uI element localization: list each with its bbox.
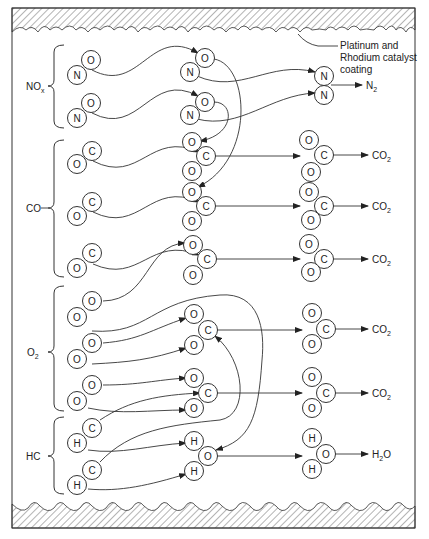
atom-n-circle: N <box>315 67 334 86</box>
atom-c-circle: C <box>199 321 218 340</box>
atom-n-circle: N <box>181 63 200 82</box>
svg-text:O: O <box>305 135 313 146</box>
svg-text:C: C <box>88 197 95 208</box>
atom-h-circle: H <box>68 476 87 495</box>
atom-o-circle: O <box>68 350 87 369</box>
catalytic-converter-diagram: Platinum and Rhodium catalyst coating NO… <box>0 0 429 539</box>
atom-c-circle: C <box>317 320 336 339</box>
svg-text:C: C <box>88 146 95 157</box>
svg-text:C: C <box>88 248 95 259</box>
atom-o-circle: O <box>302 263 321 282</box>
svg-text:O: O <box>189 240 197 251</box>
co-label: CO <box>26 203 41 214</box>
nox-label: NOx <box>26 81 45 94</box>
product-co2-3: CO2 <box>372 254 391 267</box>
product-co2-2: CO2 <box>372 201 391 214</box>
hc-brace <box>48 417 64 494</box>
atom-c-circle: C <box>199 384 218 403</box>
svg-text:C: C <box>322 388 329 399</box>
atom-h-circle: H <box>68 434 87 453</box>
atom-o-circle: O <box>183 162 202 181</box>
svg-text:C: C <box>320 254 327 265</box>
svg-text:C: C <box>320 201 327 212</box>
svg-text:O: O <box>88 296 96 307</box>
nox-group: NOx <box>26 45 64 128</box>
atom-o-circle: O <box>184 236 203 255</box>
hc-label: HC <box>26 451 40 462</box>
top-catalyst-coating <box>12 8 415 32</box>
atom-c-circle: C <box>198 250 217 269</box>
atom-o-circle: O <box>83 292 102 311</box>
atom-o-circle: O <box>183 212 202 231</box>
atom-o-circle: O <box>196 93 215 112</box>
o2-label: O2 <box>27 347 39 360</box>
atom-o-circle: O <box>185 369 204 388</box>
co-brace <box>48 140 64 277</box>
svg-text:O: O <box>308 308 316 319</box>
catalyst-label-line1: Platinum and <box>340 40 398 51</box>
product-n2: N2 <box>366 80 377 93</box>
svg-text:O: O <box>204 451 212 462</box>
atom-h-circle: H <box>303 429 322 448</box>
nox-brace <box>48 45 64 128</box>
catalyst-label-line2: Rhodium catalyst <box>340 52 417 63</box>
svg-text:O: O <box>305 239 313 250</box>
atom-c-circle: C <box>83 193 102 212</box>
svg-text:C: C <box>202 151 209 162</box>
svg-text:O: O <box>307 167 315 178</box>
atom-h-circle: H <box>185 432 204 451</box>
atom-c-circle: C <box>83 142 102 161</box>
svg-text:C: C <box>204 325 211 336</box>
atom-o-circle: O <box>68 207 87 226</box>
svg-text:O: O <box>307 267 315 278</box>
atom-c-circle: C <box>197 147 216 166</box>
atom-o-circle: O <box>302 211 321 230</box>
atom-o-circle: O <box>300 235 319 254</box>
atom-c-circle: C <box>83 461 102 480</box>
atom-o-circle: O <box>303 304 322 323</box>
product-co2-5: CO2 <box>372 388 391 401</box>
svg-text:O: O <box>305 187 313 198</box>
output-molecules: NNOCOOCOOCOOCOOCOHOH <box>300 67 336 479</box>
atom-o-circle: O <box>183 133 202 152</box>
svg-text:C: C <box>204 388 211 399</box>
svg-text:O: O <box>73 354 81 365</box>
svg-text:C: C <box>203 254 210 265</box>
svg-text:C: C <box>320 150 327 161</box>
product-labels: N2 CO2 CO2 CO2 CO2 CO2 H2O <box>366 80 391 462</box>
svg-text:O: O <box>189 270 197 281</box>
svg-text:H: H <box>73 438 80 449</box>
svg-text:O: O <box>87 55 95 66</box>
svg-text:O: O <box>87 98 95 109</box>
atom-o-circle: O <box>303 399 322 418</box>
svg-text:N: N <box>73 70 80 81</box>
atom-h-circle: H <box>303 460 322 479</box>
svg-text:H: H <box>308 464 315 475</box>
svg-text:C: C <box>88 423 95 434</box>
svg-text:C: C <box>88 465 95 476</box>
svg-text:H: H <box>73 480 80 491</box>
svg-text:N: N <box>320 71 327 82</box>
atom-n-circle: N <box>68 66 87 85</box>
svg-text:O: O <box>73 159 81 170</box>
svg-text:O: O <box>308 403 316 414</box>
hc-group: HC <box>26 417 64 494</box>
atom-o-circle: O <box>303 335 322 354</box>
atom-o-circle: O <box>196 49 215 68</box>
atom-o-circle: O <box>317 445 336 464</box>
svg-text:O: O <box>308 372 316 383</box>
svg-text:O: O <box>188 166 196 177</box>
svg-text:O: O <box>308 339 316 350</box>
svg-text:O: O <box>201 53 209 64</box>
svg-text:O: O <box>88 380 96 391</box>
atom-c-circle: C <box>315 146 334 165</box>
svg-text:C: C <box>202 201 209 212</box>
svg-text:O: O <box>188 187 196 198</box>
atom-o-circle: O <box>183 183 202 202</box>
atom-o-circle: O <box>68 155 87 174</box>
svg-text:O: O <box>190 373 198 384</box>
atom-o-circle: O <box>68 308 87 327</box>
catalyst-intermediates: ONONOCOOCOOCOOCOOCOHOH <box>181 49 218 481</box>
atom-o-circle: O <box>199 447 218 466</box>
svg-text:O: O <box>73 312 81 323</box>
